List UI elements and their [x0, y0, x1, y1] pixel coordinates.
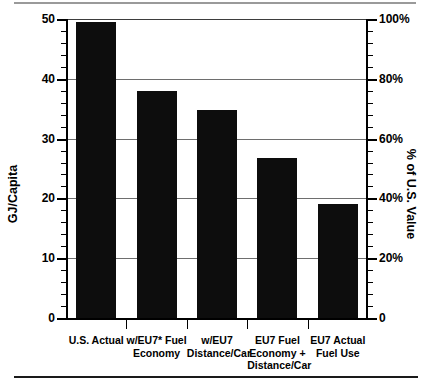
y-tick-major: [57, 318, 66, 320]
y2-tick-minor: [368, 282, 373, 283]
y-tick-minor: [61, 163, 66, 164]
y-tick-minor: [61, 31, 66, 32]
y2-tick-label: 60%: [379, 132, 403, 146]
y-tick-major: [57, 139, 66, 141]
y2-tick-major: [368, 79, 377, 81]
y-tick-minor: [61, 282, 66, 283]
y-tick-minor: [61, 210, 66, 211]
y2-tick-major: [368, 318, 377, 320]
x-category-label: EU7 Fuel Economy + Distance/Car: [247, 334, 307, 372]
top-rule: [14, 2, 416, 4]
y2-tick-minor: [368, 127, 373, 128]
y2-tick-minor: [368, 67, 373, 68]
y2-tick-minor: [368, 174, 373, 175]
bar: [137, 91, 177, 318]
y-tick-minor: [61, 55, 66, 56]
y-tick-label: 20: [42, 191, 55, 205]
y2-tick-label: 40%: [379, 191, 403, 205]
y-tick-minor: [61, 306, 66, 307]
y2-tick-minor: [368, 246, 373, 247]
y2-axis-line: [366, 19, 368, 320]
y2-tick-minor: [368, 222, 373, 223]
y-tick-label: 10: [42, 251, 55, 265]
y-tick-minor: [61, 91, 66, 92]
y-tick-major: [57, 198, 66, 200]
y2-tick-label: 100%: [379, 12, 410, 26]
x-tick: [126, 320, 127, 329]
y-tick-minor: [61, 222, 66, 223]
y2-tick-major: [368, 258, 377, 260]
y-tick-major: [57, 19, 66, 21]
bar: [76, 22, 116, 318]
y-tick-minor: [61, 115, 66, 116]
x-tick: [247, 320, 248, 329]
bar: [318, 204, 358, 318]
y2-tick-major: [368, 139, 377, 141]
y-axis-title: GJ/Capita: [6, 165, 20, 223]
x-category-label: w/EU7 Distance/Car: [187, 334, 247, 359]
y-tick-minor: [61, 43, 66, 44]
y2-tick-minor: [368, 91, 373, 92]
y-tick-major: [57, 79, 66, 81]
y-tick-minor: [61, 151, 66, 152]
bar: [257, 158, 297, 318]
y-axis-line: [66, 19, 68, 320]
y-tick-minor: [61, 127, 66, 128]
y2-tick-label: 20%: [379, 251, 403, 265]
y2-tick-minor: [368, 306, 373, 307]
y-tick-label: 50: [42, 12, 55, 26]
y-tick-minor: [61, 246, 66, 247]
y2-tick-label: 80%: [379, 72, 403, 86]
y-tick-minor: [61, 270, 66, 271]
y2-tick-label: 0: [379, 311, 386, 325]
y-tick-label: 30: [42, 132, 55, 146]
chart-figure: GJ/Capita % of U.S. Value 01020304050 02…: [0, 0, 430, 388]
y2-tick-minor: [368, 151, 373, 152]
y-tick-label: 40: [42, 72, 55, 86]
y2-axis-title: % of U.S. Value: [404, 149, 418, 239]
y-tick-minor: [61, 234, 66, 235]
bar: [197, 110, 237, 318]
y-tick-minor: [61, 294, 66, 295]
y2-tick-minor: [368, 294, 373, 295]
x-category-label: EU7 Actual Fuel Use: [308, 334, 368, 359]
x-axis-line: [66, 318, 368, 320]
bottom-rule: [14, 376, 418, 378]
y2-tick-minor: [368, 115, 373, 116]
y-tick-minor: [61, 174, 66, 175]
plot-area: [66, 19, 368, 320]
y2-tick-minor: [368, 43, 373, 44]
y2-tick-minor: [368, 270, 373, 271]
y-tick-major: [57, 258, 66, 260]
x-tick: [187, 320, 188, 329]
y-tick-minor: [61, 186, 66, 187]
y2-tick-minor: [368, 55, 373, 56]
x-tick: [308, 320, 309, 329]
y-tick-minor: [61, 103, 66, 104]
y2-tick-major: [368, 198, 377, 200]
y2-tick-major: [368, 19, 377, 21]
x-category-label: U.S. Actual: [66, 334, 126, 347]
y2-tick-minor: [368, 103, 373, 104]
y2-tick-minor: [368, 31, 373, 32]
y-tick-minor: [61, 67, 66, 68]
x-category-label: w/EU7* Fuel Economy: [126, 334, 186, 359]
plot-top-border: [66, 19, 368, 20]
y2-tick-minor: [368, 210, 373, 211]
y2-tick-minor: [368, 234, 373, 235]
y-tick-label: 0: [48, 311, 55, 325]
y2-tick-minor: [368, 163, 373, 164]
y2-tick-minor: [368, 186, 373, 187]
